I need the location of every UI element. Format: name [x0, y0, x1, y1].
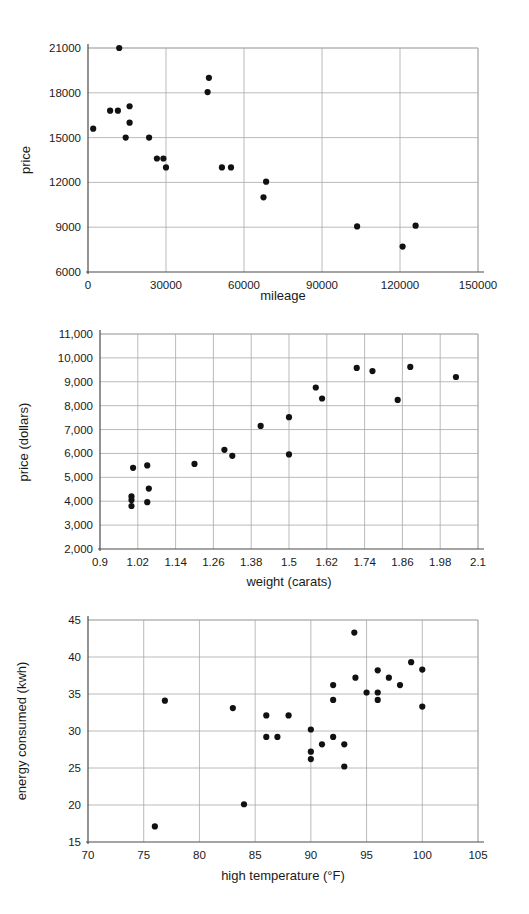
x-tick-label: 1.14	[164, 556, 187, 568]
data-point	[313, 384, 319, 390]
data-point	[221, 447, 227, 453]
x-tick-label: 75	[137, 849, 150, 861]
data-point	[206, 75, 212, 81]
data-point	[127, 120, 133, 126]
y-tick-label: 9,000	[64, 376, 93, 388]
data-point	[127, 103, 133, 109]
chart-1-canvas: 0300006000090000120000150000600090001200…	[0, 0, 529, 310]
x-axis-title: weight (carats)	[245, 574, 331, 589]
y-tick-label: 9000	[55, 221, 81, 233]
data-point	[152, 823, 158, 829]
data-point	[107, 108, 113, 114]
data-point	[453, 374, 459, 380]
y-axis-title: energy consumed (kwh)	[14, 662, 29, 801]
y-tick-label: 30	[68, 725, 81, 737]
y-tick-label: 12000	[49, 176, 81, 188]
data-point	[229, 453, 235, 459]
data-point	[330, 682, 336, 688]
data-point	[319, 395, 325, 401]
data-point	[408, 659, 414, 665]
y-tick-label: 15000	[49, 132, 81, 144]
y-axis-title: price (dollars)	[16, 403, 31, 482]
x-tick-label: 0	[85, 279, 91, 291]
x-tick-label: 120000	[381, 279, 419, 291]
data-point	[407, 364, 413, 370]
data-point	[274, 734, 280, 740]
data-point	[116, 45, 122, 51]
data-point	[128, 497, 134, 503]
x-tick-label: 30000	[150, 279, 182, 291]
data-point	[330, 734, 336, 740]
x-tick-label: 90000	[306, 279, 338, 291]
data-point	[160, 155, 166, 161]
data-point	[163, 164, 169, 170]
data-point	[219, 164, 225, 170]
data-point	[230, 705, 236, 711]
y-tick-label: 8,000	[64, 400, 93, 412]
data-point	[308, 756, 314, 762]
chart-2-canvas: 0.91.021.141.261.381.51.621.741.861.982.…	[0, 310, 529, 602]
data-point	[369, 368, 375, 374]
data-point	[319, 741, 325, 747]
x-tick-label: 0.9	[92, 556, 108, 568]
chart-3-canvas: 70758085909510010515202530354045high tem…	[0, 602, 529, 914]
x-tick-label: 90	[304, 849, 317, 861]
data-point	[308, 726, 314, 732]
y-tick-label: 3,000	[64, 519, 93, 531]
data-point	[397, 682, 403, 688]
data-point	[419, 703, 425, 709]
x-tick-label: 1.86	[391, 556, 413, 568]
x-tick-label: 105	[468, 849, 487, 861]
scatter-chart-price-vs-weight: 0.91.021.141.261.381.51.621.741.861.982.…	[0, 310, 529, 602]
data-point	[308, 749, 314, 755]
x-tick-label: 85	[249, 849, 262, 861]
data-point	[354, 365, 360, 371]
x-tick-label: 95	[360, 849, 373, 861]
x-tick-label: 1.02	[127, 556, 149, 568]
data-point	[263, 734, 269, 740]
data-point	[144, 462, 150, 468]
y-tick-label: 18000	[49, 87, 81, 99]
y-tick-label: 35	[68, 688, 81, 700]
data-point	[419, 666, 425, 672]
x-tick-label: 70	[82, 849, 95, 861]
data-point	[130, 465, 136, 471]
data-point	[115, 108, 121, 114]
data-point	[241, 801, 247, 807]
y-tick-label: 15	[68, 836, 81, 848]
data-point	[90, 126, 96, 132]
x-tick-label: 1.74	[353, 556, 376, 568]
y-tick-label: 5,000	[64, 471, 93, 483]
y-tick-label: 10,000	[58, 352, 93, 364]
x-tick-label: 2.1	[470, 556, 486, 568]
y-tick-label: 7,000	[64, 424, 93, 436]
y-tick-label: 40	[68, 651, 81, 663]
y-tick-label: 45	[68, 614, 81, 626]
y-tick-label: 4,000	[64, 495, 93, 507]
data-point	[375, 689, 381, 695]
x-tick-label: 1.26	[202, 556, 224, 568]
data-point	[351, 629, 357, 635]
data-point	[154, 155, 160, 161]
data-point	[123, 135, 129, 141]
y-tick-label: 2,000	[64, 543, 93, 555]
data-point	[375, 697, 381, 703]
data-point	[128, 503, 134, 509]
data-point	[146, 135, 152, 141]
y-tick-label: 21000	[49, 42, 81, 54]
data-point	[191, 461, 197, 467]
y-tick-label: 11,000	[59, 328, 93, 340]
data-point	[263, 712, 269, 718]
x-tick-label: 1.98	[429, 556, 451, 568]
data-point	[341, 741, 347, 747]
data-point	[286, 414, 292, 420]
scatter-chart-energy-vs-temperature: 70758085909510010515202530354045high tem…	[0, 602, 529, 914]
data-point	[258, 423, 264, 429]
data-point	[352, 675, 358, 681]
x-axis-title: mileage	[260, 288, 306, 303]
data-point	[400, 244, 406, 250]
data-point	[285, 712, 291, 718]
data-point	[146, 485, 152, 491]
data-point	[330, 697, 336, 703]
data-point	[263, 179, 269, 185]
